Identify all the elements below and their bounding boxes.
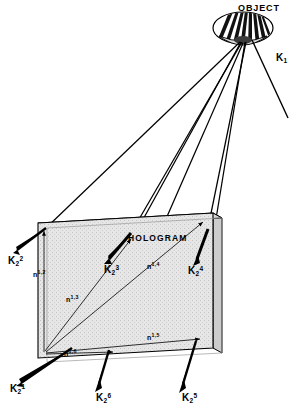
k2-2-sup: 2 bbox=[19, 255, 23, 262]
k2-3-label: K23 bbox=[104, 265, 119, 277]
n-1-4-sup: 1,4 bbox=[152, 261, 160, 267]
object-shape bbox=[213, 11, 273, 47]
reference-beam-sub: 1 bbox=[284, 57, 288, 64]
k2-4-sup: 4 bbox=[199, 265, 203, 272]
object-label: OBJECT bbox=[238, 4, 280, 13]
k2-1-label: K21 bbox=[10, 384, 25, 396]
n-1-3-label: n1,3 bbox=[66, 295, 79, 303]
diagram-canvas bbox=[0, 0, 303, 412]
n-1-6-sup: 1,6 bbox=[69, 348, 77, 354]
k2-2-symbol: K bbox=[8, 255, 16, 266]
n-1-5-label: n1,5 bbox=[147, 333, 160, 341]
k2-4-symbol: K bbox=[188, 265, 196, 276]
reference-beam-label: K1 bbox=[276, 53, 287, 65]
n-1-2-sup: 1,2 bbox=[38, 269, 46, 275]
k2-5-symbol: K bbox=[182, 392, 190, 403]
n-1-2-label: n1,2 bbox=[33, 270, 46, 278]
n-1-4-label: n1,4 bbox=[147, 262, 160, 270]
k2-6-sup: 6 bbox=[107, 392, 111, 399]
holography-diagram: OBJECT HOLOGRAM K1 K21 K22 K23 K24 K25 K… bbox=[0, 0, 303, 412]
k2-4-label: K24 bbox=[188, 266, 203, 278]
k2-3-symbol: K bbox=[104, 264, 112, 275]
k2-5-label: K25 bbox=[182, 393, 197, 405]
n-1-5-sup: 1,5 bbox=[152, 332, 160, 338]
k2-3-sup: 3 bbox=[115, 264, 119, 271]
k2-6-label: K26 bbox=[96, 393, 111, 405]
n-1-6-label: n1,6 bbox=[64, 349, 77, 357]
k2-1-sup: 1 bbox=[21, 383, 25, 390]
k2-6-symbol: K bbox=[96, 392, 104, 403]
reference-beam-symbol: K bbox=[276, 52, 284, 63]
k2-1-symbol: K bbox=[10, 383, 18, 394]
n-1-3-sup: 1,3 bbox=[71, 294, 79, 300]
k2-2-label: K22 bbox=[8, 256, 23, 268]
k2-5-sup: 5 bbox=[193, 392, 197, 399]
hologram-label: HOLOGRAM bbox=[128, 234, 187, 243]
